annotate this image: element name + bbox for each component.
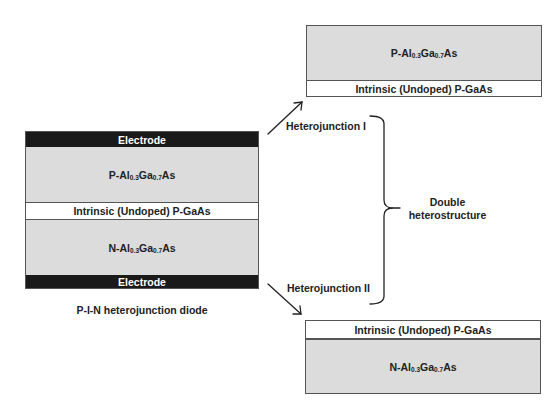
- arrow-up-right-icon: [268, 102, 302, 134]
- arrow-down-right-icon: [268, 284, 301, 314]
- curly-brace-icon: [370, 116, 393, 304]
- arrows-and-brace: [0, 0, 560, 412]
